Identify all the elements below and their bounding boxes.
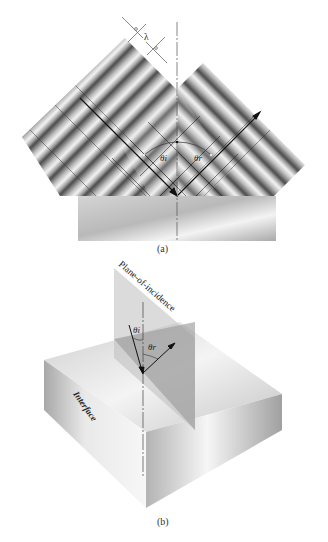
part-b: θi θr Plane-of-incidence Interface (b)	[44, 259, 282, 528]
part-a: θi θr λ (a)	[0, 0, 320, 270]
wavelength-label: λ	[144, 32, 149, 42]
reflection-diagram: θi θr λ (a)	[0, 0, 328, 542]
reflected-angle-label: θr	[194, 153, 202, 163]
incident-angle-label: θi	[160, 153, 167, 163]
caption-a: (a)	[157, 243, 168, 255]
reflected-angle-label-b: θr	[148, 342, 156, 352]
caption-b: (b)	[157, 516, 169, 528]
incident-angle-label-b: θi	[133, 325, 140, 335]
